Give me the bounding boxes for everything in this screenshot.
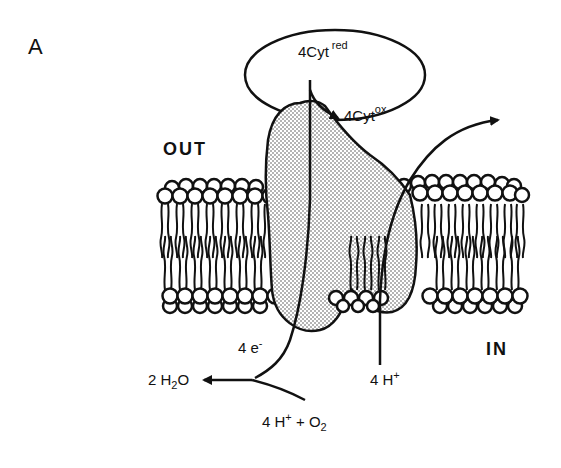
panel-label: A [28, 36, 43, 58]
substrate-branch [252, 380, 305, 400]
pumped-protons-label: 4 H+ [370, 372, 400, 387]
cyt-reduced-label: 4Cytred [298, 44, 348, 59]
electrons-label: 4 e- [238, 340, 263, 355]
left-bilayer [158, 179, 283, 313]
cytochrome-oxidase-diagram [0, 0, 561, 468]
cyt-oxidized-label: 4Cytox [344, 108, 386, 123]
compartment-out-label: OUT [163, 140, 207, 158]
compartment-in-label: IN [486, 340, 508, 358]
substrates-label: 4 H+ + O2 [262, 414, 327, 429]
water-product-label: 2 H2O [148, 372, 189, 387]
